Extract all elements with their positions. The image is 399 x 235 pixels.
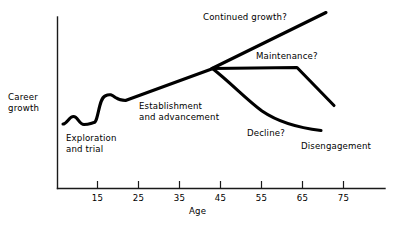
curve-decline (213, 69, 322, 131)
annotation-establishment-line2: and advancement (139, 112, 219, 123)
annotation-disengagement: Disengagement (301, 141, 371, 152)
y-axis-title-line1: Career (8, 92, 39, 103)
y-axis-title: Career growth (8, 92, 39, 115)
annotation-decline: Decline? (247, 128, 285, 139)
annotation-exploration-line2: and trial (66, 144, 117, 155)
x-axis-title: Age (189, 206, 206, 217)
x-tick-label-25: 25 (127, 193, 151, 203)
x-tick-label-15: 15 (86, 193, 110, 203)
x-tick-label-65: 65 (291, 193, 315, 203)
x-tick-label-75: 75 (332, 193, 356, 203)
annotation-establishment-and-advancement: Establishment and advancement (139, 101, 219, 124)
y-axis-title-line2: growth (8, 103, 39, 114)
annotation-continued-growth: Continued growth? (203, 12, 287, 23)
annotation-exploration-line1: Exploration (66, 133, 117, 144)
annotation-establishment-line1: Establishment (139, 101, 219, 112)
curve-maintenance (212, 68, 334, 106)
x-tick-label-35: 35 (168, 193, 192, 203)
x-tick-label-55: 55 (250, 193, 274, 203)
x-tick-label-45: 45 (209, 193, 233, 203)
annotation-maintenance: Maintenance? (256, 51, 318, 62)
annotation-exploration-and-trial: Exploration and trial (66, 133, 117, 156)
career-growth-diagram: Career growth Age 15 25 35 45 55 65 75 E… (0, 0, 399, 235)
